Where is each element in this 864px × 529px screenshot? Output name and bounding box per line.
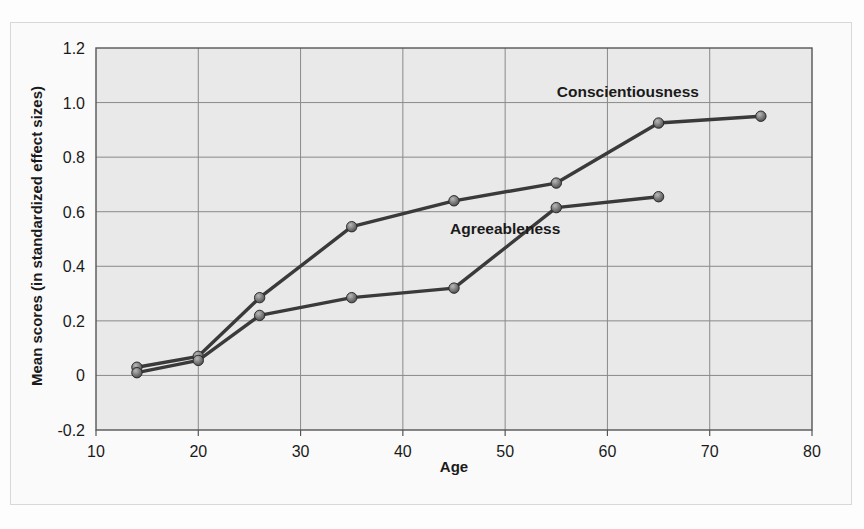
y-tick-label: 0 bbox=[76, 367, 85, 384]
y-tick-label: 0.4 bbox=[63, 258, 85, 275]
data-point-marker bbox=[756, 111, 766, 121]
data-point-marker bbox=[449, 196, 459, 206]
y-tick-label: 1.2 bbox=[63, 40, 85, 57]
data-point-marker bbox=[449, 283, 459, 293]
data-point-marker bbox=[254, 292, 264, 302]
series-label: Agreeableness bbox=[450, 220, 560, 237]
y-tick-label: 1.0 bbox=[63, 95, 85, 112]
x-axis-title: Age bbox=[440, 458, 468, 475]
data-point-marker bbox=[653, 192, 663, 202]
line-chart: 1020304050607080 1.21.00.80.60.40.20-0.2… bbox=[0, 0, 864, 529]
y-tick-label: 0.8 bbox=[63, 149, 85, 166]
y-tick-label: 0.6 bbox=[63, 204, 85, 221]
x-tick-label: 10 bbox=[87, 443, 105, 460]
data-point-marker bbox=[653, 118, 663, 128]
plot-background bbox=[96, 48, 812, 430]
y-axis-tick-labels: 1.21.00.80.60.40.20-0.2 bbox=[57, 40, 85, 439]
data-point-marker bbox=[347, 222, 357, 232]
data-point-marker bbox=[193, 355, 203, 365]
data-point-marker bbox=[254, 310, 264, 320]
x-axis-ticks bbox=[96, 430, 812, 436]
x-tick-label: 40 bbox=[394, 443, 412, 460]
x-tick-label: 80 bbox=[803, 443, 821, 460]
x-tick-label: 70 bbox=[701, 443, 719, 460]
y-tick-label: -0.2 bbox=[57, 422, 85, 439]
x-tick-label: 20 bbox=[189, 443, 207, 460]
x-tick-label: 30 bbox=[292, 443, 310, 460]
x-tick-label: 50 bbox=[496, 443, 514, 460]
data-point-marker bbox=[347, 292, 357, 302]
x-tick-label: 60 bbox=[599, 443, 617, 460]
data-point-marker bbox=[132, 368, 142, 378]
y-axis-title: Mean scores (in standardized effect size… bbox=[28, 86, 45, 386]
data-point-marker bbox=[551, 178, 561, 188]
data-point-marker bbox=[551, 202, 561, 212]
series-label: Conscientiousness bbox=[557, 83, 699, 100]
y-tick-label: 0.2 bbox=[63, 313, 85, 330]
figure-container: 1020304050607080 1.21.00.80.60.40.20-0.2… bbox=[0, 0, 864, 529]
